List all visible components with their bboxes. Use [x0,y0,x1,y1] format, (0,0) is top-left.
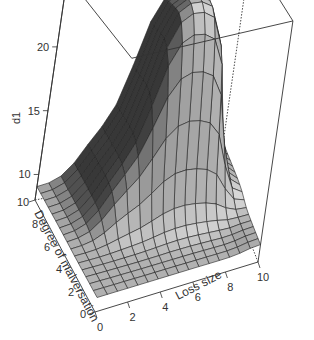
surface-facet [206,170,217,204]
tick-label: 2 [130,311,136,323]
surface-plot: 02468100246810101520 Loss size Degree of… [0,0,314,340]
tick-label: 10 [257,271,269,283]
tick-label: 10 [17,196,29,208]
surface-facet [193,34,205,72]
surface-facet [194,12,206,35]
surface-facet [185,204,197,226]
surface-facet [195,169,207,204]
tick-label: 0 [97,321,103,333]
surface-facet [174,170,186,209]
tick-label: 15 [28,105,40,117]
surface-facet [195,203,206,223]
tick-label: 10 [18,168,30,180]
surface-facet [185,169,197,206]
surface-facet [206,203,217,222]
tick-label: 8 [227,281,233,293]
surface-mesh [37,0,261,297]
surface-facet [174,205,186,228]
z-axis-label: d1 [10,112,22,124]
tick-label: 20 [37,41,49,53]
tick-label: 4 [162,301,168,313]
